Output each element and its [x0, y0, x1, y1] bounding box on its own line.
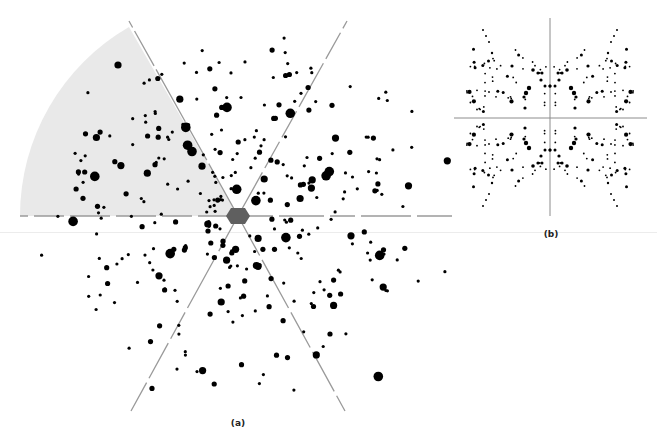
panel-b: [454, 18, 647, 216]
panel-a: [20, 21, 452, 411]
caption-a: (a): [231, 418, 245, 428]
caption-b: (b): [544, 229, 559, 239]
axes: [454, 18, 647, 216]
center-hexagon-icon: [226, 208, 250, 224]
shaded-sector: [20, 27, 238, 216]
diffraction-figure: [0, 0, 657, 435]
